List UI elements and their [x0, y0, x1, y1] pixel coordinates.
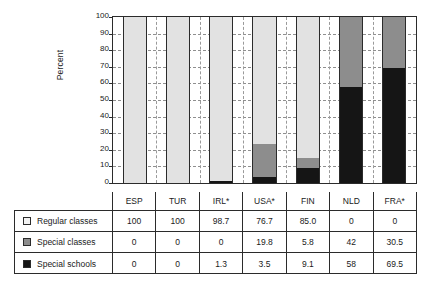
- table-cell: 69.5: [374, 253, 416, 274]
- table-cell: 5.8: [287, 232, 330, 252]
- plot-area: [112, 16, 417, 184]
- y-axis-tick: [109, 100, 113, 101]
- y-axis-tick: [109, 34, 113, 35]
- legend-label: Special classes: [37, 237, 96, 247]
- legend-label: Special schools: [37, 259, 96, 269]
- category-separator: [373, 17, 374, 183]
- y-axis-tick-label: 0: [83, 178, 109, 186]
- bar-segment: [339, 87, 363, 183]
- y-axis-tick-label: 10: [83, 161, 109, 169]
- table-cell: 58: [330, 253, 373, 274]
- bar-segment: [166, 17, 190, 183]
- stacked-bar: [296, 17, 320, 183]
- y-axis-label: Percent: [55, 30, 69, 100]
- legend-entry: Special schools: [15, 253, 113, 274]
- bar-segment: [296, 158, 320, 168]
- table-cell: 1.3: [200, 253, 243, 274]
- bar-segment: [296, 17, 320, 158]
- table-cell: 98.7: [200, 211, 243, 231]
- y-axis-tick-label: 90: [83, 29, 109, 37]
- table-cell: 0: [156, 253, 199, 274]
- x-axis-category-fin: FIN: [287, 192, 330, 210]
- table-cell: 0: [374, 211, 416, 231]
- table-row: Regular classes10010098.776.785.000: [15, 211, 416, 232]
- y-axis-tick: [109, 83, 113, 84]
- table-cell: 0: [200, 232, 243, 252]
- bar-segment: [209, 181, 233, 183]
- table-value-group: 001.33.59.15869.5: [113, 253, 416, 274]
- category-separator: [286, 17, 287, 183]
- bar-segment: [252, 17, 276, 144]
- category-separator: [243, 17, 244, 183]
- table-cell: 19.8: [243, 232, 286, 252]
- table-cell: 76.7: [243, 211, 286, 231]
- table-cell: 42: [330, 232, 373, 252]
- bar-segment: [339, 17, 363, 87]
- table-cell: 0: [330, 211, 373, 231]
- legend-swatch-icon: [23, 238, 31, 246]
- bar-segment: [252, 144, 276, 177]
- table-cell: 9.1: [287, 253, 330, 274]
- table-value-group: 10010098.776.785.000: [113, 211, 416, 231]
- category-separator: [329, 17, 330, 183]
- table-cell: 85.0: [287, 211, 330, 231]
- stacked-bar: [339, 17, 363, 183]
- y-axis-tick-label: 40: [83, 112, 109, 120]
- chart-figure: Percent 1009080706050403020100 ESPTURIRL…: [0, 0, 429, 291]
- stacked-bar: [382, 17, 406, 183]
- y-axis-tick-label: 60: [83, 78, 109, 86]
- y-axis-tick: [109, 17, 113, 18]
- bar-segment: [382, 68, 406, 183]
- x-axis-category-row: ESPTURIRL*USA*FINNLDFRA*: [112, 192, 417, 211]
- table-cell: 3.5: [243, 253, 286, 274]
- bar-segment: [252, 177, 276, 183]
- bar-segment: [123, 17, 147, 183]
- legend-entry: Regular classes: [15, 211, 113, 231]
- y-axis-tick-label: 50: [83, 95, 109, 103]
- table-row: Special classes00019.85.84230.5: [15, 232, 416, 253]
- legend-swatch-icon: [23, 217, 31, 225]
- x-axis-category-usa: USA*: [243, 192, 286, 210]
- y-axis-tick: [109, 67, 113, 68]
- y-axis-tick-label: 100: [83, 12, 109, 20]
- x-axis-category-fra: FRA*: [374, 192, 416, 210]
- x-axis-category-tur: TUR: [156, 192, 199, 210]
- table-cell: 0: [113, 232, 156, 252]
- y-axis-tick-label: 30: [83, 128, 109, 136]
- x-axis-category-esp: ESP: [113, 192, 156, 210]
- y-axis-tick: [109, 133, 113, 134]
- y-axis-tick-label: 80: [83, 45, 109, 53]
- x-axis-category-nld: NLD: [330, 192, 373, 210]
- y-axis-tick: [109, 50, 113, 51]
- table-value-group: 00019.85.84230.5: [113, 232, 416, 252]
- y-axis-tick-label: 70: [83, 62, 109, 70]
- stacked-bar: [166, 17, 190, 183]
- legend-label: Regular classes: [37, 216, 97, 226]
- table-row: Special schools001.33.59.15869.5: [15, 253, 416, 274]
- stacked-bar: [123, 17, 147, 183]
- bar-segment: [209, 17, 233, 181]
- table-cell: 100: [156, 211, 199, 231]
- y-axis-tick: [109, 150, 113, 151]
- table-cell: 100: [113, 211, 156, 231]
- y-axis-tick: [109, 183, 113, 184]
- plot-inner: [113, 17, 416, 183]
- table-cell: 30.5: [374, 232, 416, 252]
- y-axis-tick-labels: 1009080706050403020100: [83, 12, 109, 184]
- y-axis-tick-label: 20: [83, 145, 109, 153]
- legend-swatch-icon: [23, 260, 31, 268]
- stacked-bar: [209, 17, 233, 183]
- table-cell: 0: [113, 253, 156, 274]
- y-axis-tick: [109, 117, 113, 118]
- stacked-bar: [252, 17, 276, 183]
- y-axis-tick: [109, 166, 113, 167]
- legend-entry: Special classes: [15, 232, 113, 252]
- bar-segment: [296, 168, 320, 183]
- bar-segment: [382, 17, 406, 68]
- table-cell: 0: [156, 232, 199, 252]
- x-axis-category-irl: IRL*: [200, 192, 243, 210]
- category-separator: [156, 17, 157, 183]
- category-separator: [200, 17, 201, 183]
- chart-plot-region: Percent 1009080706050403020100 ESPTURIRL…: [0, 0, 429, 192]
- data-table: Regular classes10010098.776.785.000Speci…: [14, 211, 417, 274]
